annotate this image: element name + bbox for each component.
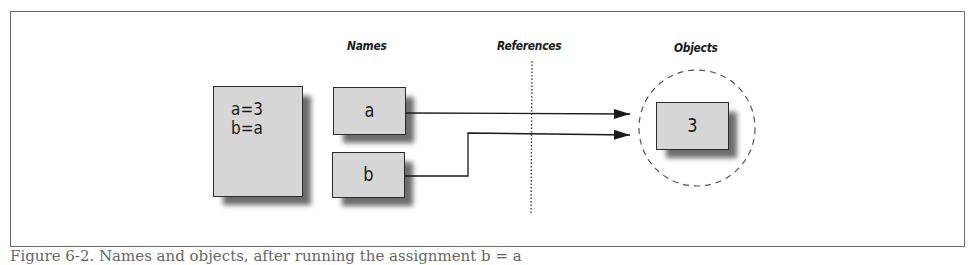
reference-arrow-a bbox=[406, 113, 630, 114]
object-box-3-value: 3 bbox=[662, 114, 722, 136]
references-divider bbox=[531, 61, 532, 215]
figure-caption: Figure 6-2. Names and objects, after run… bbox=[10, 249, 522, 264]
reference-arrow-b bbox=[405, 133, 630, 176]
object-box-3: 3 bbox=[656, 102, 729, 150]
